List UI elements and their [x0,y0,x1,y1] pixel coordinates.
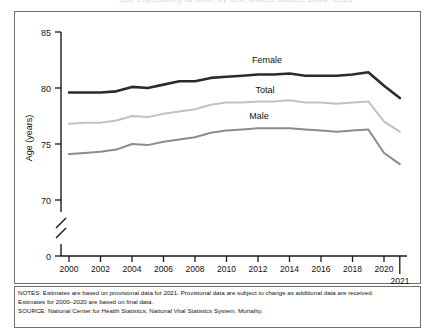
y-tick-label-85: 85 [41,28,51,38]
x-tick-label-2018: 2018 [343,264,362,274]
series-label-male: Male [249,111,269,121]
y-tick-label-75: 75 [41,140,51,150]
notes-line-2: Estimates for 2000–2020 are based on fin… [18,298,418,307]
x-tick-label-2008: 2008 [186,264,205,274]
x-tick-label-2006: 2006 [154,264,173,274]
x-tick-label-2000: 2000 [60,264,79,274]
y-axis-break-mark-2 [56,228,66,238]
series-label-female: Female [252,55,282,65]
series-line-total [69,100,400,131]
notes-line-1: NOTES: Estimates are based on provisiona… [18,289,418,298]
figure-title-partial: Life expectancy at birth, by sex: United… [120,0,353,4]
x-tick-label-2016: 2016 [312,264,331,274]
notes-text: NOTES: Estimates are based on provisiona… [18,289,418,315]
series-line-female [69,72,400,98]
series-label-total: Total [255,85,274,95]
figure-root: Life expectancy at birth, by sex: United… [0,0,435,334]
chart-panel: 85 80 75 70 0 Age (years) [14,11,421,284]
figure-title-strip: Life expectancy at birth, by sex: United… [0,0,435,10]
plot-area: 85 80 75 70 0 Age (years) [15,12,422,285]
x-tick-label-2002: 2002 [91,264,110,274]
y-axis-break-mark-1 [56,218,66,228]
x-tick-label-2012: 2012 [249,264,268,274]
y-tick-label-70: 70 [41,196,51,206]
x-tick-label-2004: 2004 [123,264,142,274]
chart-svg: 85 80 75 70 0 Age (years) [15,12,422,285]
y-axis-title: Age (years) [24,115,34,162]
notes-line-3: SOURCE: National Center for Health Stati… [18,307,418,316]
y-tick-label-0: 0 [46,252,51,262]
x-tick-label-2014: 2014 [280,264,299,274]
x-tick-label-2020: 2020 [375,264,394,274]
notes-panel: NOTES: Estimates are based on provisiona… [14,286,421,328]
series-line-male [69,128,400,164]
x-tick-label-2010: 2010 [217,264,236,274]
x-tick-label-2021: 2021 [391,276,410,285]
y-tick-label-80: 80 [41,84,51,94]
